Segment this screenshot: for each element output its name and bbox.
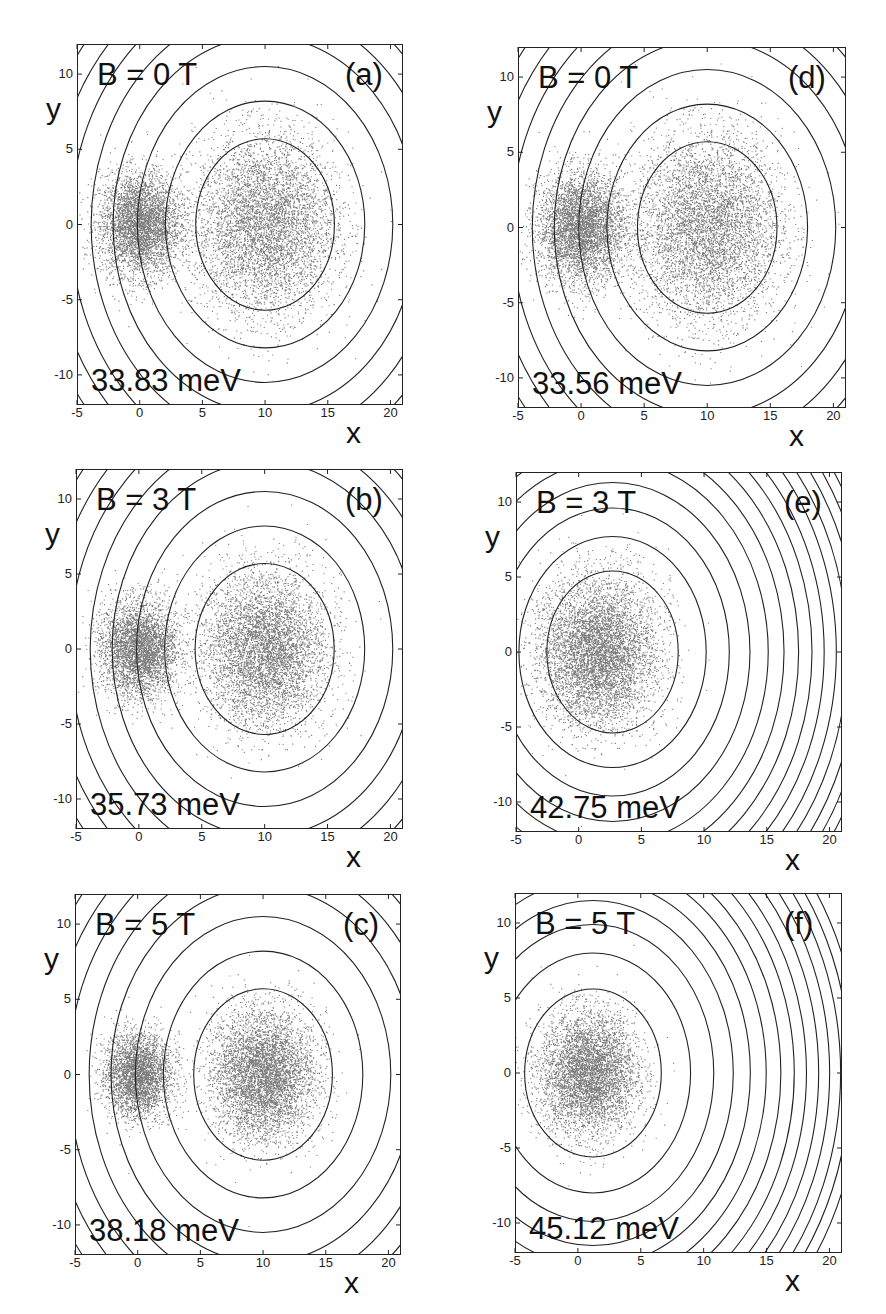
field-strength-label: B = 5 T — [535, 908, 635, 940]
y-tick-label: -10 — [481, 1216, 511, 1230]
x-axis-label: x — [785, 1266, 800, 1296]
y-tick-label: 0 — [481, 1066, 511, 1080]
y-tick-label: 10 — [481, 916, 511, 930]
y-axis-label: y — [484, 943, 499, 973]
panel-tag: (f) — [784, 908, 813, 940]
energy-annotation: 45.12 meV — [529, 1213, 679, 1245]
x-tick-label: 20 — [814, 1254, 844, 1268]
x-tick-label: 10 — [689, 1254, 719, 1268]
y-tick-label: 5 — [481, 991, 511, 1005]
plot-frame — [515, 893, 842, 1253]
x-tick-label: 0 — [563, 1254, 593, 1268]
y-tick-label: -5 — [481, 1141, 511, 1155]
x-tick-label: 5 — [626, 1254, 656, 1268]
x-tick-label: -5 — [500, 1254, 530, 1268]
x-tick-label: 15 — [752, 1254, 782, 1268]
